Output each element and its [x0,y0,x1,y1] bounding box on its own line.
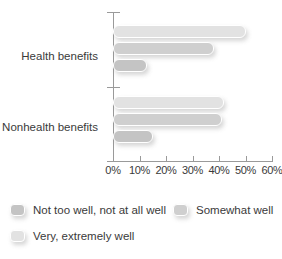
bar-chart: 0%10%20%30%40%50%60% Health benefits Non… [0,0,282,259]
x-axis-tick [193,156,194,162]
x-axis-tick [113,156,114,162]
x-axis-tick-label: 60% [257,164,282,176]
x-axis-tick [140,156,141,162]
bar [113,59,147,72]
category-label-nonhealth-benefits: Nonhealth benefits [2,121,98,133]
x-axis-tick [246,156,247,162]
x-axis-tick-label: 20% [151,164,181,176]
legend-item-somewhat-well[interactable]: Somewhat well [173,204,273,216]
plot-area: 0%10%20%30%40%50%60% Health benefits Non… [0,0,282,175]
legend-label: Not too well, not at all well [33,204,166,216]
legend-swatch-icon [10,230,25,242]
legend-item-very-extremely-well[interactable]: Very, extremely well [10,230,134,242]
bar [113,25,246,38]
y-axis-cap-middle [107,87,120,88]
x-axis-tick-label: 30% [178,164,208,176]
legend-swatch-icon [173,204,188,216]
chart-legend: Not too well, not at all well Somewhat w… [0,196,282,259]
bar [113,96,224,109]
legend-label: Very, extremely well [33,230,134,242]
x-axis-tick-label: 0% [98,164,128,176]
x-axis-tick [272,156,273,162]
legend-swatch-icon [10,204,25,216]
bar [113,42,214,55]
legend-label: Somewhat well [196,204,273,216]
legend-item-not-too-well[interactable]: Not too well, not at all well [10,204,166,216]
x-axis-tick-label: 10% [125,164,155,176]
bar [113,130,153,143]
x-axis-tick [166,156,167,162]
y-axis-cap-top [107,12,120,13]
category-label-health-benefits: Health benefits [21,50,98,62]
x-axis-tick [219,156,220,162]
bar [113,113,222,126]
x-axis-tick-label: 40% [204,164,234,176]
x-axis-tick-label: 50% [231,164,261,176]
